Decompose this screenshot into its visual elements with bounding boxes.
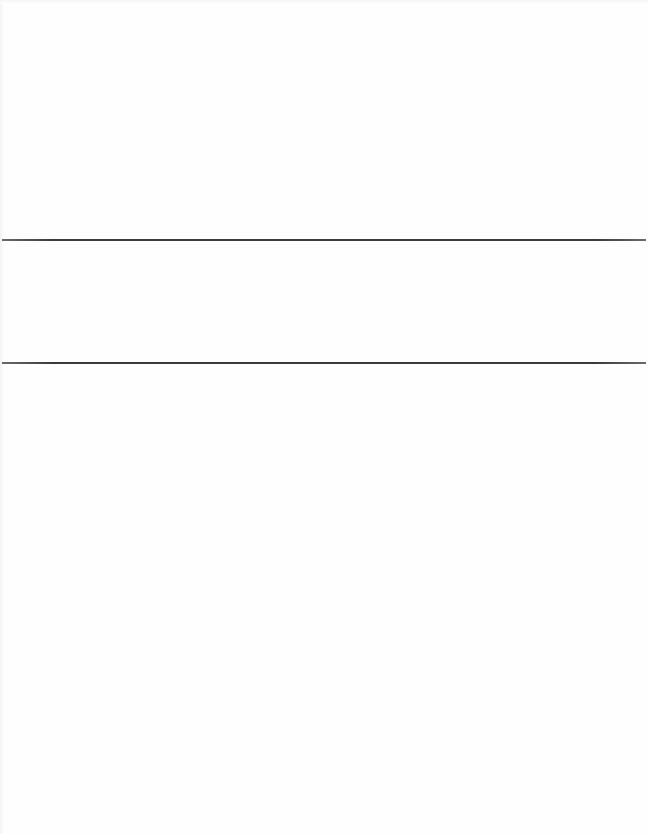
- top-blank-section: [0, 0, 648, 239]
- bottom-blank-section: [0, 364, 648, 834]
- middle-blank-section: [0, 241, 648, 362]
- blank-document-page: [0, 0, 648, 834]
